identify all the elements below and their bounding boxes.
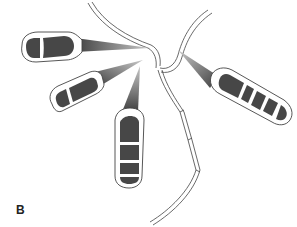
- hyphae: [88, 2, 212, 225]
- cell: [120, 145, 139, 160]
- panel-label: B: [16, 203, 25, 217]
- hypha-top-right: [160, 10, 208, 68]
- conidium-bottom-center: [115, 66, 144, 188]
- hypha-top-left: [88, 3, 156, 68]
- cell: [120, 116, 139, 142]
- conidia-illustration: [0, 0, 297, 227]
- hypha-long-down: [150, 70, 196, 222]
- conidium-right: [178, 50, 292, 125]
- cell: [120, 163, 139, 174]
